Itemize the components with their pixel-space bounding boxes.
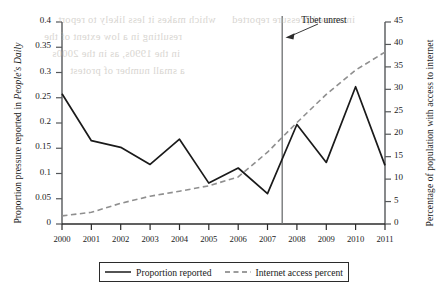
chart-figure: which makes it less likely to report res… — [0, 0, 440, 296]
right-tick-label: 0 — [394, 217, 426, 227]
left-tick-label: 0.15 — [19, 141, 51, 151]
right-tick-label: 5 — [394, 195, 426, 205]
left-tick-label: 0.05 — [19, 192, 51, 202]
right-tick-label: 45 — [394, 15, 426, 25]
left-tick-label: 0.3 — [19, 66, 51, 76]
legend-label: Proportion reported — [136, 267, 211, 278]
right-tick-label: 10 — [394, 172, 426, 182]
right-tick-label: 35 — [394, 60, 426, 70]
tibet-unrest-annotation: Tibet unrest — [296, 15, 352, 26]
legend-label: Internet access percent — [256, 267, 343, 278]
right-axis-ticks — [385, 22, 391, 224]
annotation-arrow-icon — [286, 33, 295, 39]
left-axis-title: Proportion pressure reported in People's… — [13, 33, 23, 233]
left-tick-label: 0.4 — [19, 15, 51, 25]
left-axis-ticks — [56, 22, 62, 224]
right-tick-label: 30 — [394, 82, 426, 92]
x-tick-label: 2011 — [365, 234, 405, 244]
x-axis-ticks — [62, 224, 385, 230]
right-axis-title: Percentage of population with access to … — [425, 33, 435, 233]
left-tick-label: 0.1 — [19, 167, 51, 177]
left-tick-label: 0.25 — [19, 91, 51, 101]
legend-item-internet-access-percent: Internet access percent — [225, 267, 343, 278]
legend-dashed-line-icon — [225, 268, 251, 276]
legend-solid-line-icon — [105, 268, 131, 276]
left-tick-label: 0.2 — [19, 116, 51, 126]
left-tick-label: 0.35 — [19, 40, 51, 50]
right-tick-label: 40 — [394, 37, 426, 47]
legend-item-proportion-reported: Proportion reported — [105, 267, 211, 278]
series-proportion-reported — [62, 87, 385, 194]
left-tick-label: 0 — [19, 217, 51, 227]
chart-legend: Proportion reported Internet access perc… — [99, 262, 349, 282]
right-tick-label: 15 — [394, 150, 426, 160]
right-tick-label: 20 — [394, 127, 426, 137]
plot-area — [0, 0, 440, 296]
right-tick-label: 25 — [394, 105, 426, 115]
